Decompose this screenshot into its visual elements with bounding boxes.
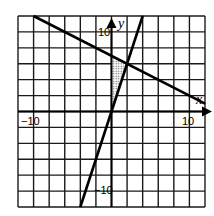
y-tick-label-neg10: −10 <box>94 184 113 196</box>
coordinate-graph: −10 10 10 −10 y x <box>0 0 214 216</box>
x-axis-label: x <box>195 92 203 107</box>
y-tick-label-10: 10 <box>98 26 110 38</box>
axes <box>18 18 212 207</box>
x-axis-arrow-icon <box>202 107 212 117</box>
y-axis-label: y <box>116 16 125 31</box>
x-tick-label-neg10: −10 <box>21 115 40 127</box>
x-tick-label-10: 10 <box>182 115 194 127</box>
